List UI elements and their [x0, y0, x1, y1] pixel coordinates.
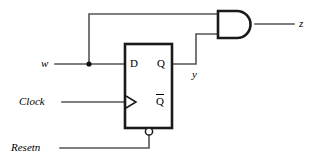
circuit-diagram: w Clock Resetn z y D Q Q	[0, 0, 319, 168]
label-input-resetn: Resetn	[11, 142, 40, 153]
label-input-w: w	[41, 58, 48, 69]
wire-layer	[55, 14, 294, 148]
pin-label-qbar-text: Q	[156, 96, 164, 107]
label-internal-y: y	[192, 69, 197, 80]
pin-label-d: D	[130, 58, 138, 69]
reset-bubble-icon	[145, 128, 152, 135]
pin-label-qbar: Q	[156, 96, 164, 107]
wire-q-to-and-bottom	[172, 34, 218, 64]
and-gate-body	[218, 11, 251, 38]
wire-resetn-to-ff	[60, 133, 149, 148]
circuit-schematic-svg	[0, 0, 319, 168]
pin-label-q: Q	[157, 58, 165, 69]
label-input-clock: Clock	[19, 96, 45, 107]
junction-dot-w	[86, 61, 91, 66]
label-output-z: z	[299, 18, 303, 29]
